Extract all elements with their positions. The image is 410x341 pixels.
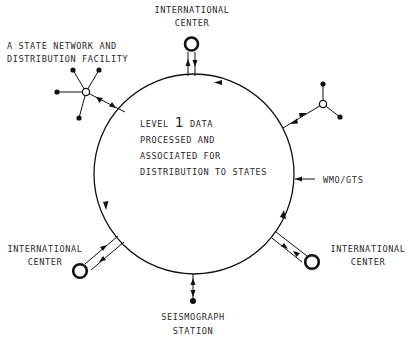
label-line: SEISMOGRAPH [148,311,238,325]
intl-center-left-label: INTERNATIONAL CENTER [0,243,90,268]
label-line: A STATE NETWORK AND [7,40,128,53]
hub-line-3: ASSOCIATED FOR [140,148,267,164]
intl-center-top-label: INTERNATIONAL CENTER [143,4,241,29]
ring-arrow-top-icon [214,80,222,85]
hub-level-prefix: LEVEL [140,119,169,129]
label-line: DISTRIBUTION FACILITY [7,53,128,66]
label-line: INTERNATIONAL [324,243,410,256]
intl-center-top-node [185,38,198,51]
seismograph-link [190,274,196,304]
label-line: INTERNATIONAL [143,4,241,17]
hub-level-number: 1 [175,114,185,130]
hub-line-1: LEVEL 1 DATA [140,114,267,132]
wmo-gts-link [295,177,315,182]
state-network-right-hub-node [319,100,326,107]
intl-center-right-label: INTERNATIONAL CENTER [324,243,410,268]
intl-center-right-link [272,232,319,269]
hub-line-2: PROCESSED AND [140,132,267,148]
state-network-right-link [283,81,343,128]
hub-description: LEVEL 1 DATA PROCESSED AND ASSOCIATED FO… [140,114,267,180]
label-line: CENTER [143,17,241,30]
label-line: STATION [148,325,238,339]
state-network-label: A STATE NETWORK AND DISTRIBUTION FACILIT… [7,40,128,65]
intl-center-top-link [185,38,198,77]
hub-line-4: DISTRIBUTION TO STATES [140,164,267,180]
seismograph-node [190,298,196,304]
hub-level-suffix: DATA [190,119,213,129]
state-network-hub-node [82,88,89,95]
label-line: CENTER [324,256,410,269]
wmo-gts-label: WMO/GTS [323,174,363,187]
ring-arrow-left-icon [103,201,109,210]
intl-center-right-node [305,255,319,269]
label-line: INTERNATIONAL [0,243,90,256]
label-line: CENTER [0,256,90,269]
seismograph-label: SEISMOGRAPH STATION [148,311,238,338]
